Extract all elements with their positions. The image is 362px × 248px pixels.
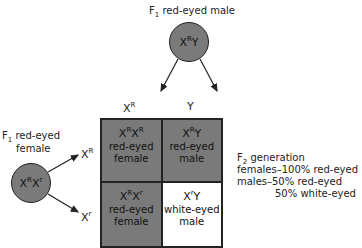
- arrow-male-to-y: [200, 59, 217, 91]
- male-genotype: XRY: [179, 35, 198, 49]
- f2-summary-females: females–100% red-eyed: [237, 164, 358, 176]
- male-parent-label: F1 red-eyed male: [149, 5, 235, 21]
- male-gamete-y: Y: [187, 101, 194, 113]
- arrow-female-to-xr: [48, 155, 78, 172]
- female-genotype: XRXr: [20, 176, 43, 190]
- female-parent-label-line2: female: [16, 143, 50, 155]
- punnett-cell-xrxr: XRXR red-eyed female: [101, 119, 162, 182]
- f2-summary-males: males–50% red-eyed: [237, 176, 342, 188]
- female-gamete-xr: XR: [81, 145, 93, 161]
- punnett-cell-xrxlr: XRXr red-eyed female: [101, 182, 162, 247]
- punnett-cell-xlry: XrY white-eyed male: [162, 182, 223, 247]
- male-gamete-xr: XR: [123, 99, 135, 115]
- male-parent-circle: XRY: [169, 22, 209, 62]
- arrow-male-to-xr: [161, 59, 178, 91]
- arrow-female-to-xlr: [48, 194, 78, 212]
- f2-summary-males-white: 50% white-eyed: [275, 188, 356, 200]
- punnett-cell-xry: XRY red-eyed male: [162, 119, 223, 182]
- female-parent-circle: XRXr: [11, 163, 51, 203]
- punnett-square: XRXR red-eyed female XRY red-eyed male X…: [100, 118, 223, 248]
- female-gamete-xlr: Xr: [81, 208, 91, 224]
